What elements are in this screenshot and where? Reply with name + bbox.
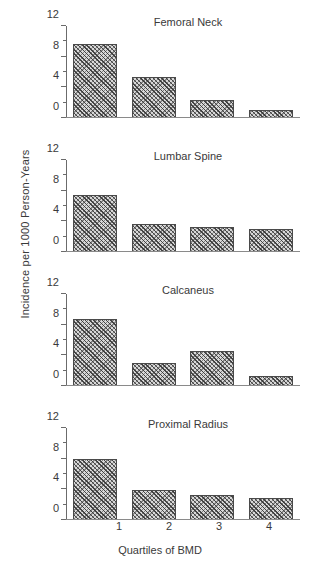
bar-slot [125, 26, 184, 118]
bar-slot [242, 294, 301, 386]
x-axis-line [66, 117, 300, 118]
bar-slot [242, 428, 301, 520]
panel-proximal-radius: Proximal Radius 0 4 8 12 1 2 [38, 420, 306, 532]
bar [190, 100, 234, 118]
bar-slot [66, 294, 125, 386]
x-tick-label-4: 4 [244, 520, 294, 532]
plot-area: 0 4 8 12 [66, 26, 300, 118]
bar-slot [183, 428, 242, 520]
bar [132, 363, 176, 386]
y-tick-label-12: 12 [47, 276, 59, 288]
bar [190, 351, 234, 386]
y-tick-label-4: 4 [53, 471, 59, 483]
x-tick-label-3: 3 [194, 520, 244, 532]
figure: Incidence per 1000 Person-Years Femoral … [0, 0, 320, 562]
bar [132, 77, 176, 118]
bar-slot [242, 160, 301, 252]
y-tick-label-12: 12 [47, 410, 59, 422]
bar-group [66, 428, 300, 520]
bar-group [66, 160, 300, 252]
bar [190, 495, 234, 520]
bar-group [66, 26, 300, 118]
y-tick-label-4: 4 [53, 203, 59, 215]
y-tick-label-0: 0 [53, 100, 59, 112]
x-axis-title: Quartiles of BMD [0, 544, 320, 556]
bar [132, 490, 176, 520]
bar-slot [125, 294, 184, 386]
y-tick-label-0: 0 [53, 368, 59, 380]
y-tick-label-0: 0 [53, 502, 59, 514]
bar-slot [66, 428, 125, 520]
x-tick-label-1: 1 [94, 520, 144, 532]
bar [249, 498, 293, 520]
y-tick-label-8: 8 [53, 307, 59, 319]
bar-group [66, 294, 300, 386]
plot-area: 0 4 8 12 1 2 3 4 [66, 428, 300, 520]
y-tick-label-4: 4 [53, 69, 59, 81]
plot-area: 0 4 8 12 [66, 294, 300, 386]
bar [73, 319, 117, 386]
bar-slot [242, 26, 301, 118]
bar-slot [183, 294, 242, 386]
y-tick-label-12: 12 [47, 8, 59, 20]
bar [249, 229, 293, 252]
bar-slot [183, 160, 242, 252]
x-tick-labels: 1 2 3 4 [94, 520, 294, 532]
y-tick-label-4: 4 [53, 337, 59, 349]
bar [132, 224, 176, 252]
panel-lumbar-spine: Lumbar Spine 0 4 8 12 [38, 152, 306, 264]
bar-slot [66, 26, 125, 118]
x-tick-label-2: 2 [144, 520, 194, 532]
bar-slot [66, 160, 125, 252]
plot-area: 0 4 8 12 [66, 160, 300, 252]
y-tick-label-8: 8 [53, 173, 59, 185]
y-tick-label-8: 8 [53, 39, 59, 51]
x-axis-line [66, 251, 300, 252]
y-tick-label-0: 0 [53, 234, 59, 246]
x-axis-line [66, 385, 300, 386]
bar-slot [183, 26, 242, 118]
y-tick-label-12: 12 [47, 142, 59, 154]
bar [73, 459, 117, 520]
bar-slot [125, 428, 184, 520]
bar-slot [125, 160, 184, 252]
y-axis-title: Incidence per 1000 Person-Years [19, 104, 31, 364]
bar [190, 227, 234, 252]
y-tick-label-8: 8 [53, 441, 59, 453]
panel-femoral-neck: Femoral Neck 0 4 8 12 [38, 18, 306, 130]
bar [73, 195, 117, 253]
panel-calcaneus: Calcaneus 0 4 8 12 [38, 286, 306, 398]
bar [73, 44, 117, 118]
